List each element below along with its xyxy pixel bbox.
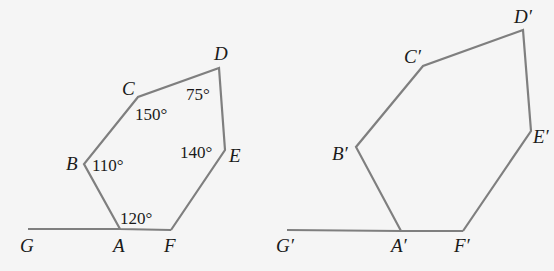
segment-GpAp: [287, 230, 401, 231]
label-C: C: [122, 78, 135, 99]
label-A: A: [111, 235, 125, 256]
label-F-prime: F′: [453, 235, 471, 256]
label-C-prime: C′: [404, 46, 422, 67]
angle-C: 150°: [135, 105, 167, 124]
label-B: B: [66, 153, 78, 174]
label-B-prime: B′: [332, 143, 349, 164]
label-E-prime: E′: [532, 126, 550, 147]
label-D-prime: D′: [513, 6, 533, 27]
polygon-ApBpCpDpEpFp: [356, 30, 531, 231]
label-F: F: [163, 235, 176, 256]
angle-E: 140°: [180, 143, 212, 162]
label-D: D: [213, 43, 228, 64]
label-A-prime: A′: [389, 235, 408, 256]
label-E: E: [228, 145, 241, 166]
angle-D: 75°: [186, 85, 210, 104]
angle-B: 110°: [92, 156, 124, 175]
label-G: G: [20, 235, 34, 256]
angle-A: 120°: [120, 209, 152, 228]
hexagon-diagram: G A F B C D E 120° 110° 150° 75° 140° G′…: [0, 0, 554, 271]
figure-right-labels: G′ A′ F′ B′ C′ D′ E′: [276, 6, 550, 256]
figure-left-labels: G A F B C D E 120° 110° 150° 75° 140°: [20, 43, 241, 256]
label-G-prime: G′: [276, 235, 295, 256]
